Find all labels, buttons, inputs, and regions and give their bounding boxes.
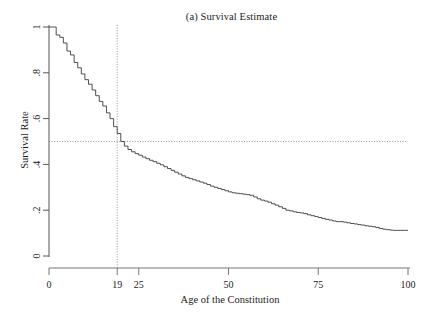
- x-tick-label: 25: [134, 279, 144, 290]
- x-tick-label: 0: [47, 279, 52, 290]
- x-tick-label: 50: [224, 279, 234, 290]
- x-axis-title: Age of the Constitution: [181, 294, 281, 305]
- y-tick-label: .8: [31, 69, 42, 77]
- x-tick-label: 100: [401, 279, 416, 290]
- y-axis-ticks: [43, 27, 49, 256]
- y-tick-label: 1: [31, 25, 42, 30]
- survival-curve-group: [49, 27, 408, 230]
- x-axis-tick-labels: 019255075100: [47, 279, 416, 290]
- survival-plot: 0.2.4.6.81 Survival Rate 019255075100 Ag…: [0, 0, 425, 317]
- reference-lines: [49, 25, 408, 268]
- y-tick-label: .6: [31, 115, 42, 123]
- x-axis-group: 019255075100 Age of the Constitution: [47, 268, 416, 305]
- survival-estimate-figure: (a) Survival Estimate 0.2.4.6.81 Surviva…: [0, 0, 425, 317]
- y-tick-label: .2: [31, 206, 42, 214]
- y-tick-label: 0: [31, 254, 42, 259]
- x-axis-ticks: [49, 268, 408, 275]
- survival-curve-line: [49, 27, 408, 230]
- y-tick-label: .4: [31, 161, 42, 169]
- x-tick-label: 19: [112, 279, 122, 290]
- y-axis-title: Survival Rate: [19, 111, 30, 169]
- y-axis-group: 0.2.4.6.81 Survival Rate: [19, 25, 49, 259]
- x-tick-label: 75: [313, 279, 323, 290]
- y-axis-tick-labels: 0.2.4.6.81: [31, 25, 42, 259]
